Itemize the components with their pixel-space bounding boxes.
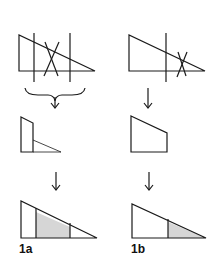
triangle-1a-step1 (19, 33, 95, 82)
triangle-1b-step3 (132, 204, 206, 238)
panel-label-1b: 1b (131, 242, 145, 256)
panel-label-1a: 1a (19, 242, 32, 256)
triangle-1b-step1 (129, 33, 205, 82)
triangle-1a-step3 (21, 201, 97, 238)
diagram-canvas (0, 0, 219, 271)
trapezoid-1b-step2 (131, 116, 167, 152)
trapezoid-1a-step2 (21, 117, 61, 152)
